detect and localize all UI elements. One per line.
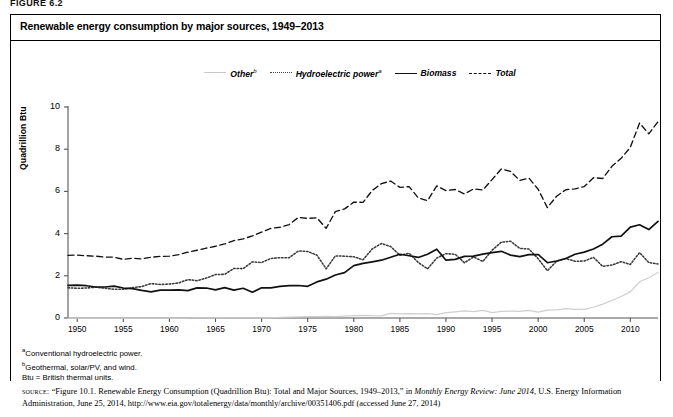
source-text-1: “Figure 10.1. Renewable Energy Consumpti… bbox=[50, 387, 415, 396]
figure-container: FIGURE 6.2 Renewable energy consumption … bbox=[0, 0, 673, 417]
x-tick-label: 1975 bbox=[288, 324, 328, 334]
x-tick-label: 1965 bbox=[196, 324, 236, 334]
source-italic: Monthly Energy Review: June 2014 bbox=[414, 387, 534, 396]
x-tick-label: 1950 bbox=[57, 324, 97, 334]
y-tick-label: 4 bbox=[38, 228, 60, 238]
x-tick-label: 2005 bbox=[564, 324, 604, 334]
x-tick-label: 1980 bbox=[334, 324, 374, 334]
y-tick-label: 2 bbox=[38, 270, 60, 280]
x-tick-label: 1955 bbox=[103, 324, 143, 334]
x-tick-label: 1995 bbox=[472, 324, 512, 334]
x-tick-label: 1960 bbox=[149, 324, 189, 334]
x-tick-label: 1970 bbox=[242, 324, 282, 334]
y-tick-label: 6 bbox=[38, 185, 60, 195]
y-tick-label: 10 bbox=[38, 101, 60, 111]
footnote: bGeothermal, solar/PV, and wind. bbox=[22, 359, 142, 373]
y-tick-label: 8 bbox=[38, 143, 60, 153]
source-prefix: source: bbox=[22, 386, 50, 396]
figure-footnotes: aConventional hydroelectric power.bGeoth… bbox=[22, 345, 142, 384]
footnote-marker: b bbox=[22, 361, 25, 367]
series-line-total bbox=[68, 122, 658, 260]
x-tick-label: 1990 bbox=[426, 324, 466, 334]
footnote: Btu = British thermal units. bbox=[22, 373, 142, 384]
y-tick-label: 0 bbox=[38, 312, 60, 322]
x-tick-label: 2010 bbox=[610, 324, 650, 334]
x-tick-label: 2000 bbox=[518, 324, 558, 334]
x-tick-label: 1985 bbox=[380, 324, 420, 334]
series-line-hydroelectric-power bbox=[68, 241, 658, 289]
source-citation: source: “Figure 10.1. Renewable Energy C… bbox=[22, 386, 662, 409]
footnote-marker: a bbox=[22, 347, 25, 353]
footnote: aConventional hydroelectric power. bbox=[22, 345, 142, 359]
series-line-other bbox=[68, 272, 658, 318]
